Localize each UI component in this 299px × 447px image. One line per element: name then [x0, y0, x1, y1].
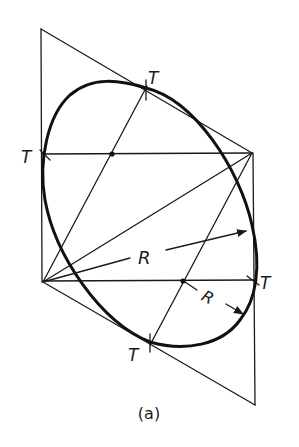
upper-center-dot: [109, 151, 114, 156]
ellipse-curve: [43, 81, 257, 346]
radius-large-line-a: [43, 258, 130, 282]
label-tangent-top: T: [148, 68, 160, 88]
label-radius-large: R: [138, 247, 151, 268]
label-tangent-left: T: [21, 147, 33, 167]
radius-large-arrow: [166, 231, 246, 250]
radius-small-arrow: [226, 304, 243, 314]
lower-horizontal-line: [43, 280, 254, 281]
figure-caption: (a): [138, 404, 160, 423]
radius-small-line-a: [185, 282, 197, 290]
construction-lines: [42, 86, 254, 345]
upper-slant-line: [43, 86, 147, 282]
lower-center-dot: [180, 278, 185, 283]
ellipse-construction-diagram: T T T T R R (a): [0, 0, 299, 447]
label-tangent-bottom: T: [128, 345, 140, 365]
left-edge: [41, 29, 42, 282]
label-tangent-right: T: [260, 273, 272, 293]
bottom-edge: [43, 282, 255, 405]
label-radius-small: R: [198, 286, 217, 308]
